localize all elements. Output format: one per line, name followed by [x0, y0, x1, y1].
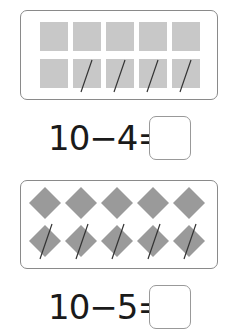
- diamond-counter-crossed: [65, 225, 97, 257]
- square-counter: [73, 22, 101, 51]
- diamond-counter: [173, 187, 205, 219]
- diamond-counter-crossed: [101, 225, 133, 257]
- answer-box[interactable]: [149, 116, 191, 160]
- square-counter: [40, 59, 68, 88]
- squares-figure: [21, 11, 219, 101]
- diamonds-figure: [21, 181, 219, 270]
- diamond-counter: [101, 187, 133, 219]
- square-counter: [106, 22, 134, 51]
- diamond-counters-panel: [20, 180, 218, 269]
- square-counter: [172, 22, 200, 51]
- diamond-counter-crossed: [173, 225, 205, 257]
- diamond-counter: [29, 187, 61, 219]
- diamond-counter: [137, 187, 169, 219]
- square-counter: [139, 22, 167, 51]
- answer-box[interactable]: [149, 285, 191, 329]
- equation-row-2: 10−5=: [0, 287, 233, 327]
- square-counters-panel: [20, 10, 218, 100]
- diamond-counter-crossed: [29, 225, 61, 257]
- equation-text: 10−5=: [48, 287, 165, 327]
- equation-row-1: 10−4=: [0, 118, 233, 158]
- diamond-counter: [65, 187, 97, 219]
- square-counter: [40, 22, 68, 51]
- equation-text: 10−4=: [48, 118, 165, 158]
- diamond-counter-crossed: [137, 225, 169, 257]
